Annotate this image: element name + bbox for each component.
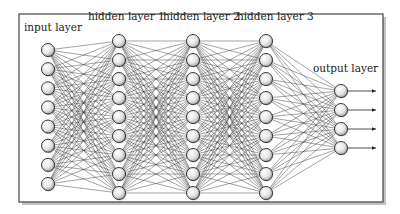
input-node-1 — [42, 44, 55, 57]
input-node-7 — [42, 158, 55, 171]
hidden2-node-8 — [187, 168, 200, 181]
hidden2-node-2 — [187, 54, 200, 67]
input-layer-label: input layer — [24, 21, 83, 33]
hidden2-node-4 — [187, 92, 200, 105]
hidden-layer-1-label: hidden layer 1 — [88, 10, 165, 22]
input-node-4 — [42, 101, 55, 114]
hidden-layer-2-label: hidden layer 2 — [163, 10, 240, 22]
input-node-5 — [42, 120, 55, 133]
hidden1-node-2 — [113, 54, 126, 67]
hidden1-node-8 — [113, 168, 126, 181]
hidden2-node-5 — [187, 111, 200, 124]
output-layer-label: output layer — [313, 62, 379, 74]
input-node-2 — [42, 63, 55, 76]
hidden2-node-7 — [187, 149, 200, 162]
hidden2-node-1 — [187, 35, 200, 48]
output-node-1 — [335, 85, 348, 98]
hidden1-node-4 — [113, 92, 126, 105]
hidden3-node-7 — [260, 149, 273, 162]
hidden1-node-5 — [113, 111, 126, 124]
output-node-3 — [335, 123, 348, 136]
hidden3-node-4 — [260, 92, 273, 105]
hidden2-node-6 — [187, 130, 200, 143]
hidden3-node-9 — [260, 187, 273, 200]
hidden1-node-7 — [113, 149, 126, 162]
hidden3-node-8 — [260, 168, 273, 181]
output-node-2 — [335, 104, 348, 117]
output-node-4 — [335, 142, 348, 155]
hidden1-node-9 — [113, 187, 126, 200]
hidden3-node-3 — [260, 73, 273, 86]
hidden1-node-3 — [113, 73, 126, 86]
hidden3-node-5 — [260, 111, 273, 124]
input-node-3 — [42, 82, 55, 95]
hidden3-node-6 — [260, 130, 273, 143]
hidden3-node-1 — [260, 35, 273, 48]
input-node-8 — [42, 177, 55, 190]
neural-network-diagram: input layer hidden layer 1 hidden layer … — [0, 0, 400, 214]
hidden3-node-2 — [260, 54, 273, 67]
hidden1-node-6 — [113, 130, 126, 143]
hidden2-node-9 — [187, 187, 200, 200]
hidden-layer-3-label: hidden layer 3 — [237, 10, 314, 22]
input-node-6 — [42, 139, 55, 152]
hidden2-node-3 — [187, 73, 200, 86]
hidden1-node-1 — [113, 35, 126, 48]
